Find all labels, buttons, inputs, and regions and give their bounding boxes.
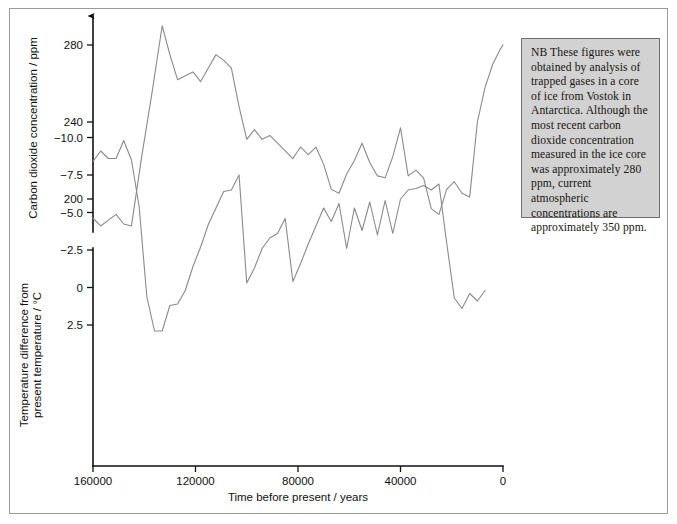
co2-y-tick-label: 240 [64,116,83,128]
temperature-y-tick-label: 2.5 [67,319,83,331]
temperature-y-axis-title-line2: present temperature / °C [31,292,43,418]
x-tick-label: 80000 [282,475,314,487]
temperature-y-ticks: 2.50−2.5−5.0−7.5−10.0 [54,132,93,332]
temperature-y-tick-label: 0 [77,282,83,294]
temperature-axes [93,248,503,466]
temperature-y-tick-label: −2.5 [60,244,83,256]
temperature-y-tick-label: −7.5 [60,169,83,181]
temperature-series-line [93,141,485,332]
x-tick-label: 40000 [385,475,417,487]
x-tick-label: 160000 [74,475,112,487]
temperature-y-tick-label: −5.0 [60,207,83,219]
x-tick-label: 0 [500,475,506,487]
x-tick-label: 120000 [176,475,214,487]
co2-y-tick-label: 280 [64,39,83,51]
explanatory-note-text: NB These figures were obtained by analys… [531,46,651,236]
x-axis-title: Time before present / years [228,491,368,503]
co2-series-line [93,26,503,226]
explanatory-note-box: NB These figures were obtained by analys… [521,38,660,218]
temperature-x-ticks: 16000012000080000400000 [74,466,506,487]
co2-chart: 200240280 Carbon dioxide concentration /… [27,16,503,232]
temperature-chart: 2.50−2.5−5.0−7.5−10.0 160000120000800004… [18,132,506,504]
temperature-y-axis-title-line1: Temperature difference from [18,283,30,427]
co2-y-tick-label: 200 [64,193,83,205]
temperature-y-tick-label: −10.0 [54,132,83,144]
figure-container: 200240280 Carbon dioxide concentration /… [0,0,677,524]
co2-y-axis-title: Carbon dioxide concentration / ppm [27,37,39,219]
